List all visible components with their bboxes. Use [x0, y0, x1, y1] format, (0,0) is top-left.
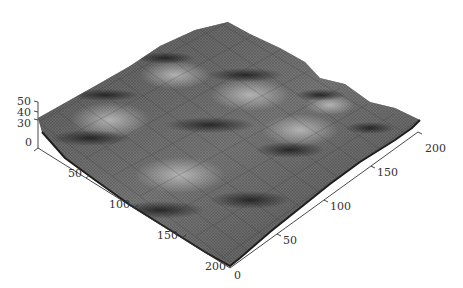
left-tick-label: 100 [109, 198, 130, 211]
z-tick-label: 30 [17, 117, 31, 130]
surface-plot: 50 40 30 0 0 50 100 150 200 0 50 100 150… [0, 0, 463, 288]
terrain-surface [30, 15, 430, 275]
right-tick-label: 200 [425, 142, 446, 155]
right-tick-label: 50 [283, 234, 297, 247]
z-tick-label: 0 [25, 136, 32, 149]
z-axis: 50 40 30 0 [17, 95, 38, 151]
left-tick-label: 150 [157, 229, 178, 242]
right-tick-label: 100 [330, 200, 351, 213]
right-tick-label: 0 [234, 269, 241, 282]
left-tick-label: 50 [68, 167, 82, 180]
left-tick-label: 200 [205, 260, 226, 273]
right-tick-label: 150 [377, 166, 398, 179]
